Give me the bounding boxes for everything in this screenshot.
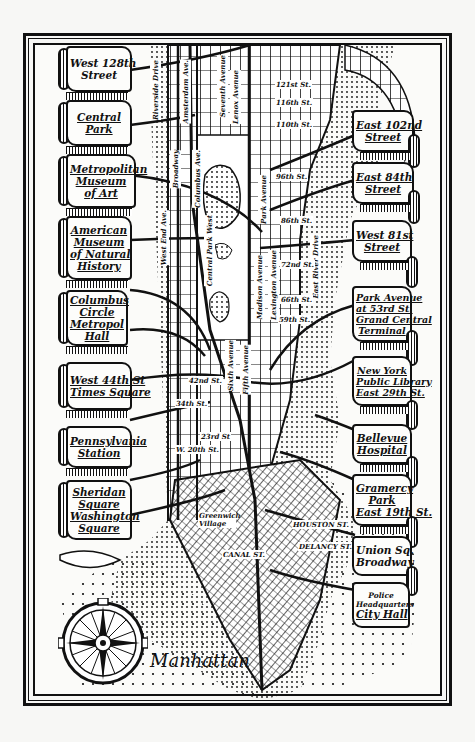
label-42nd-st: 42nd St. (188, 376, 223, 385)
label-fifth-avenue: Fifth Avenue (240, 345, 251, 395)
label-23rd-st: 23rd St (200, 432, 231, 441)
scroll-fringe (66, 92, 128, 100)
scroll-fringe (66, 208, 132, 216)
scroll-roll (406, 256, 418, 288)
label-110th-st: 110th St. (275, 120, 313, 129)
label-66th-st: 66th St. (280, 295, 313, 304)
label-72nd-st: 72nd St. (280, 260, 315, 269)
scroll-fringe (66, 280, 128, 288)
label-sixth-avenue: Sixth Avenue (225, 340, 236, 391)
scroll-times-square[interactable]: West 44th St Times Square (66, 362, 132, 410)
scroll-bellevue-hospital[interactable]: Bellevue Hospital (352, 424, 412, 464)
scroll-fringe (66, 146, 128, 154)
label-riverside-drive: Riverside Drive (150, 60, 161, 120)
scroll-fringe (66, 410, 128, 418)
scroll-gramercy-park[interactable]: Gramercy Park East 19th St. (352, 474, 412, 526)
label-34th-st: 34th St. (175, 399, 208, 408)
label-park-avenue: Park Avenue (258, 175, 269, 224)
scroll-fringe (360, 526, 408, 534)
label-central-park-west: Central Park West (204, 215, 215, 286)
label-houston-st: HOUSTON ST. (292, 520, 350, 529)
scroll-fringe (360, 342, 408, 350)
label-madison-avenue: Madison Avenue (254, 255, 265, 319)
label-59th-st: 59th St. (278, 315, 311, 324)
compass-rose-icon (58, 598, 148, 688)
scroll-fringe (66, 346, 128, 354)
scroll-grand-central-terminal[interactable]: Park Avenue at 53rd St. Grand Central Te… (352, 286, 412, 342)
scroll-east-84th-street[interactable]: East 84th Street (352, 162, 414, 204)
label-canal-st: CANAL ST. (222, 550, 266, 559)
map-title: Manhattan (150, 650, 250, 671)
scroll-union-square[interactable]: Union Sq. Broadway (352, 536, 412, 576)
scroll-fringe (360, 152, 410, 160)
scroll-west-81st-street[interactable]: West 81st Street (352, 220, 412, 262)
label-greenwich-village: Greenwich Village (198, 512, 236, 528)
scroll-fringe (360, 406, 408, 414)
label-columbus-ave: Columbus Ave. (192, 150, 203, 208)
label-86th-st: 86th St. (280, 216, 313, 225)
label-lexington-avenue: Lexington Avenue (268, 250, 279, 320)
label-w-20th-st: W. 20th St. (175, 445, 220, 454)
scroll-fringe (66, 468, 128, 476)
scroll-pennsylvania-station[interactable]: Pennsylvania Station (66, 426, 132, 468)
scroll-fringe (360, 204, 410, 212)
scroll-metropolitan-museum[interactable]: Metropolitan Museum of Art (66, 154, 136, 208)
label-broadway: Broadway (170, 150, 181, 188)
label-121st-st: 121st St. (275, 80, 312, 89)
label-amsterdam-ave: Amsterdam Ave. (180, 60, 191, 124)
scroll-fringe (360, 464, 408, 472)
scroll-fringe (360, 262, 408, 270)
label-96th-st: 96th St. (275, 172, 308, 181)
scroll-city-hall[interactable]: Police Headquarters City Hall (352, 582, 410, 628)
scroll-central-park[interactable]: Central Park (66, 100, 132, 146)
label-116th-st: 116th St. (275, 98, 313, 107)
label-west-end-ave: West End Ave. (158, 210, 169, 265)
label-lenox-avenue: Lenox Avenue (230, 70, 241, 124)
label-seventh-avenue: Seventh Avenue (217, 55, 228, 117)
scroll-columbus-circle[interactable]: Columbus Circle Metropol Hall (66, 290, 128, 346)
scroll-washington-square[interactable]: Sheridan Square Washington Square (66, 480, 132, 540)
scroll-public-library[interactable]: New York Public Library East 29th St. (352, 356, 412, 406)
scroll-west-128th-street[interactable]: West 128th Street (66, 46, 132, 92)
label-delancy-st: DELANCY ST. (298, 542, 353, 551)
scroll-east-102nd-street[interactable]: East 102nd Street (352, 110, 414, 152)
scroll-natural-history-museum[interactable]: American Museum of Natural History (66, 216, 132, 280)
